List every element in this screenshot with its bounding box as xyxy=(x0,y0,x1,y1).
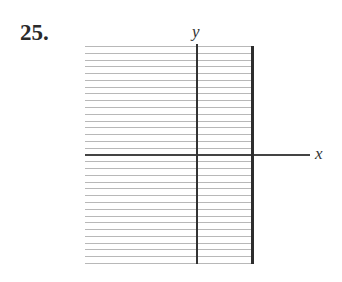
grid-line xyxy=(85,60,252,61)
grid-line xyxy=(85,175,252,176)
x-axis-label: x xyxy=(315,144,323,164)
grid-line xyxy=(85,256,252,257)
grid-line xyxy=(85,93,252,94)
grid-line xyxy=(85,114,252,115)
grid-line xyxy=(85,229,252,230)
grid-line xyxy=(85,127,252,128)
grid-line xyxy=(85,121,252,122)
grid-line xyxy=(85,243,252,244)
grid-line xyxy=(85,100,252,101)
grid-line xyxy=(85,222,252,223)
grid-line xyxy=(85,236,252,237)
grid-line xyxy=(85,263,252,264)
y-axis xyxy=(196,44,198,264)
grid-line xyxy=(85,168,252,169)
grid-line xyxy=(85,161,252,162)
grid-line xyxy=(85,202,252,203)
grid-line xyxy=(85,66,252,67)
grid-line xyxy=(85,134,252,135)
grid-line xyxy=(85,141,252,142)
grid-line xyxy=(85,148,252,149)
grid-line xyxy=(85,107,252,108)
grid-line xyxy=(85,182,252,183)
grid-line xyxy=(85,73,252,74)
grid-line xyxy=(85,195,252,196)
grid-line xyxy=(85,80,252,81)
grid-line xyxy=(85,209,252,210)
grid-line xyxy=(85,53,252,54)
grid-line xyxy=(85,188,252,189)
grid-line xyxy=(85,249,252,250)
grid-line xyxy=(85,46,252,47)
grid-line xyxy=(85,87,252,88)
grid-right-border xyxy=(251,46,254,264)
problem-number: 25. xyxy=(20,20,49,46)
y-axis-label: y xyxy=(192,22,200,42)
grid-line xyxy=(85,216,252,217)
